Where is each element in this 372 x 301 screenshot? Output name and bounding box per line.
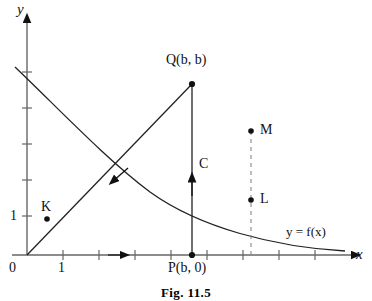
point-label-M: M	[260, 123, 272, 137]
point-K-marker	[44, 216, 50, 222]
point-P-marker	[189, 252, 195, 258]
curve-direction-arrow	[112, 168, 128, 182]
figure-caption: Fig. 11.5	[0, 285, 372, 301]
point-label-K: K	[41, 200, 51, 214]
curve-label: y = f(x)	[286, 225, 326, 238]
segment-label-C: C	[199, 157, 208, 171]
point-label-P: P(b, 0)	[168, 261, 206, 275]
y-axis-label: y	[17, 2, 24, 17]
point-label-Q: Q(b, b)	[166, 53, 206, 67]
point-Q-marker	[189, 81, 195, 87]
point-label-L: L	[260, 192, 269, 206]
y-tick-label-1: 1	[10, 209, 17, 223]
diagonal-line-y-equals-x	[27, 84, 192, 255]
point-L-marker	[248, 197, 254, 203]
point-M-marker	[248, 128, 254, 134]
x-tick-label-1: 1	[58, 261, 65, 275]
x-axis-label: x	[356, 247, 363, 262]
origin-label: 0	[9, 261, 16, 275]
